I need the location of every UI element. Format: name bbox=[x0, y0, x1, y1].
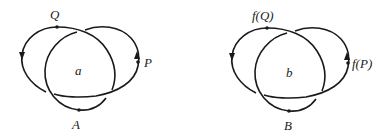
point-q-dot bbox=[55, 25, 59, 29]
label-q: Q bbox=[50, 8, 59, 21]
label-p: P bbox=[144, 56, 152, 69]
center-label-a: a bbox=[75, 64, 82, 77]
point-fp-dot bbox=[346, 61, 350, 65]
label-a: A bbox=[72, 118, 80, 131]
arrow-down-icon bbox=[229, 53, 235, 61]
point-p-dot bbox=[136, 60, 140, 64]
label-fp: f(P) bbox=[352, 57, 372, 70]
point-b-dot bbox=[287, 109, 291, 113]
center-label-b: b bbox=[286, 66, 293, 79]
arrow-down-icon bbox=[19, 52, 25, 60]
label-b: B bbox=[284, 119, 292, 132]
point-a-dot bbox=[77, 108, 81, 112]
label-fq: f(Q) bbox=[252, 9, 274, 22]
point-fq-dot bbox=[265, 26, 269, 30]
